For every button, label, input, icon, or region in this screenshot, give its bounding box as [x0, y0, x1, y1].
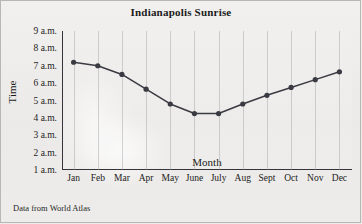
x-tick-sept: Sept — [258, 173, 275, 183]
series-line — [74, 62, 340, 113]
data-point-mar — [119, 72, 124, 77]
y-tick-2: 2 a.m. — [34, 148, 57, 158]
data-point-may — [168, 101, 173, 106]
data-point-july — [216, 111, 221, 116]
x-tick-may: May — [162, 173, 179, 183]
source-footnote: Data from World Atlas — [13, 203, 90, 213]
y-axis-label-text: Time — [6, 81, 18, 104]
x-tick-nov: Nov — [307, 173, 323, 183]
x-tick-oct: Oct — [284, 173, 298, 183]
sunrise-line-series — [62, 31, 352, 170]
y-tick-6: 6 a.m. — [34, 78, 57, 88]
y-tick-4: 4 a.m. — [34, 113, 57, 123]
x-tick-apr: Apr — [139, 173, 154, 183]
y-tick-5: 5 a.m. — [34, 96, 57, 106]
y-tick-9: 9 a.m. — [34, 26, 57, 36]
data-point-apr — [144, 87, 149, 92]
y-tick-8: 8 a.m. — [34, 43, 57, 53]
y-tick-3: 3 a.m. — [34, 130, 57, 140]
data-point-jan — [71, 60, 76, 65]
data-point-june — [192, 111, 197, 116]
data-point-nov — [313, 77, 318, 82]
x-tick-mar: Mar — [114, 173, 130, 183]
x-tick-july: July — [211, 173, 227, 183]
y-tick-1: 1 a.m. — [34, 165, 57, 175]
x-tick-jan: Jan — [67, 173, 80, 183]
y-tick-7: 7 a.m. — [34, 61, 57, 71]
data-point-aug — [240, 101, 245, 106]
x-tick-aug: Aug — [235, 173, 251, 183]
x-tick-feb: Feb — [91, 173, 105, 183]
x-tick-june: June — [186, 173, 203, 183]
plot-area: 1 a.m.2 a.m.3 a.m.4 a.m.5 a.m.6 a.m.7 a.… — [62, 31, 352, 170]
x-tick-dec: Dec — [332, 173, 347, 183]
chart-page: Indianapolis Sunrise Time 1 a.m.2 a.m.3 … — [0, 0, 362, 224]
chart-title: Indianapolis Sunrise — [0, 6, 362, 18]
data-point-oct — [289, 85, 294, 90]
data-point-sept — [264, 93, 269, 98]
y-axis-label: Time — [6, 74, 18, 92]
x-axis-label: Month — [62, 156, 352, 168]
data-point-feb — [95, 63, 100, 68]
data-point-dec — [337, 69, 342, 74]
